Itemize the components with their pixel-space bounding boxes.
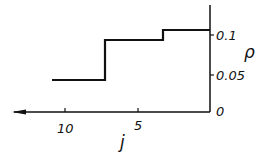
ytick-label-01: 0.1 [216,28,237,43]
x-axis-arrow-icon [12,110,26,115]
xtick-label-5: 5 [134,118,142,133]
step-chart: 10 5 0 0.05 0.1 j ρ [0,0,264,156]
step-series-line [52,30,210,80]
ytick-label-0: 0 [216,104,224,119]
xtick-label-10: 10 [57,121,74,136]
y-axis-label: ρ [244,42,255,62]
x-axis-label: j [118,132,125,152]
ytick-label-005: 0.05 [216,68,245,83]
